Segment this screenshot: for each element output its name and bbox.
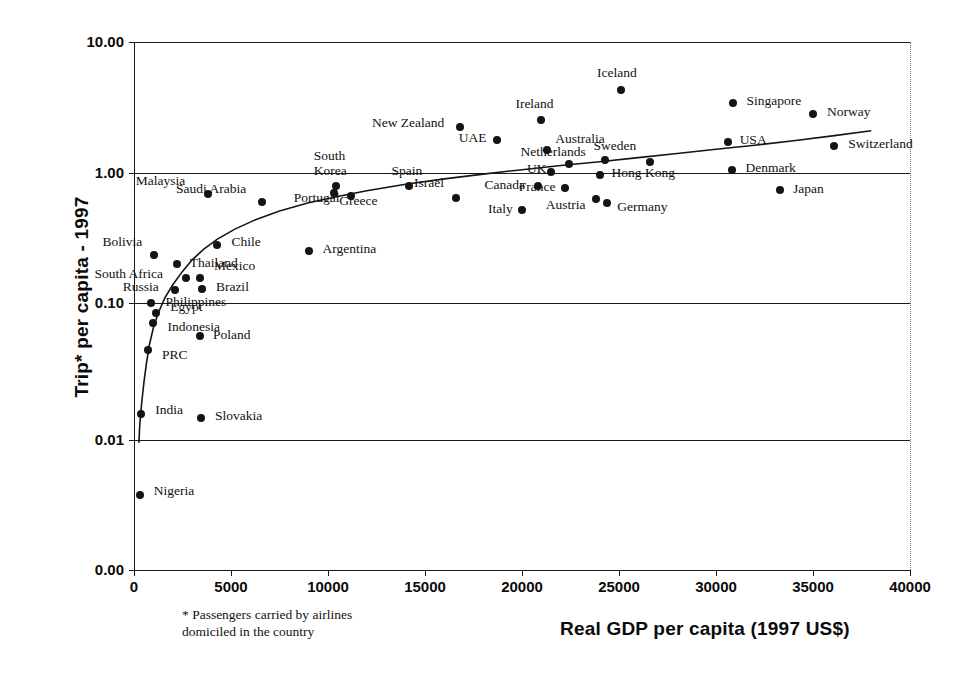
x-tick-mark — [425, 570, 426, 576]
data-point[interactable] — [149, 319, 157, 327]
x-tick-label: 10000 — [307, 578, 349, 595]
data-point[interactable] — [196, 332, 204, 340]
data-point[interactable] — [493, 136, 501, 144]
x-tick-label: 35000 — [792, 578, 834, 595]
data-point[interactable] — [137, 410, 145, 418]
data-point-label: Argentina — [323, 242, 377, 256]
data-point[interactable] — [332, 182, 340, 190]
data-point[interactable] — [603, 199, 611, 207]
data-point[interactable] — [213, 241, 221, 249]
data-point[interactable] — [197, 414, 205, 422]
data-point-label: Bolivia — [102, 235, 142, 249]
data-point-label: Austria — [546, 198, 586, 212]
x-tick-mark — [522, 570, 523, 576]
x-axis-title: Real GDP per capita (1997 US$) — [560, 618, 850, 640]
footnote-line-2: domiciled in the country — [182, 623, 352, 640]
data-point[interactable] — [173, 260, 181, 268]
footnote-line-1: * Passengers carried by airlines — [182, 606, 352, 623]
gridline-10.00 — [134, 42, 910, 43]
data-point-label: Russia — [123, 280, 159, 294]
chart-screenshot: Trip* per capita - 1997 Real GDP per cap… — [0, 0, 979, 684]
data-point-label: Sweden — [593, 139, 636, 153]
x-tick-mark — [619, 570, 620, 576]
data-point[interactable] — [596, 171, 604, 179]
data-point[interactable] — [182, 274, 190, 282]
y-tick-label: 0.00 — [95, 561, 124, 578]
data-point[interactable] — [646, 158, 654, 166]
data-point-label: Poland — [213, 328, 251, 342]
x-tick-label-wrap: 40000 — [850, 578, 970, 596]
x-tick-mark — [716, 570, 717, 576]
data-point-label: Portugal — [294, 191, 340, 205]
data-point-label: Nigeria — [154, 484, 194, 498]
data-point[interactable] — [518, 206, 526, 214]
data-point[interactable] — [776, 186, 784, 194]
data-point[interactable] — [198, 285, 206, 293]
data-point[interactable] — [258, 198, 266, 206]
data-point-label: Italy — [488, 202, 513, 216]
data-point[interactable] — [592, 195, 600, 203]
y-tick-label-wrap: 0.10 — [4, 294, 124, 312]
data-point[interactable] — [724, 138, 732, 146]
y-tick-label: 1.00 — [95, 164, 124, 181]
x-tick-mark — [328, 570, 329, 576]
data-point-label: Ireland — [515, 97, 553, 111]
x-tick-label: 0 — [130, 578, 138, 595]
data-point[interactable] — [729, 99, 737, 107]
data-point[interactable] — [561, 184, 569, 192]
footnote: * Passengers carried by airlines domicil… — [182, 606, 352, 640]
data-point[interactable] — [537, 116, 545, 124]
x-tick-label: 20000 — [501, 578, 543, 595]
fitted-curve — [134, 42, 924, 582]
data-point[interactable] — [601, 156, 609, 164]
data-point-label: Japan — [793, 182, 824, 196]
y-tick-mark — [129, 173, 135, 174]
data-point[interactable] — [565, 160, 573, 168]
data-point-label: Brazil — [216, 280, 249, 294]
gridline-0.10 — [134, 303, 910, 304]
data-point[interactable] — [547, 168, 555, 176]
data-point-label: Norway — [827, 105, 871, 119]
data-point-label: Switzerland — [848, 137, 912, 151]
y-tick-label-wrap: 10.00 — [4, 33, 124, 51]
y-axis-line — [134, 42, 135, 570]
x-tick-mark — [813, 570, 814, 576]
data-point[interactable] — [830, 142, 838, 150]
y-tick-mark — [129, 303, 135, 304]
data-point[interactable] — [452, 194, 460, 202]
x-tick-label: 30000 — [695, 578, 737, 595]
x-tick-mark — [910, 570, 911, 576]
data-point[interactable] — [147, 299, 155, 307]
data-point-label: Mexico — [214, 259, 255, 273]
data-point-label: Singapore — [746, 94, 801, 108]
data-point[interactable] — [809, 110, 817, 118]
data-point[interactable] — [405, 182, 413, 190]
plot-right-border — [910, 42, 911, 570]
y-tick-label: 0.10 — [95, 294, 124, 311]
data-point-label: New Zealand — [372, 116, 444, 130]
data-point-label: South Africa — [94, 267, 163, 281]
data-point-label: PRC — [162, 348, 188, 362]
data-point-label: UAE — [459, 131, 487, 145]
y-tick-label: 10.00 — [86, 33, 124, 50]
plot-area: NigeriaIndiaPRCIndonesiaEgyptPhilippines… — [134, 42, 910, 570]
data-point-label: Iceland — [597, 66, 637, 80]
data-point[interactable] — [305, 247, 313, 255]
x-tick-mark — [231, 570, 232, 576]
data-point[interactable] — [150, 251, 158, 259]
data-point[interactable] — [617, 86, 625, 94]
data-point[interactable] — [144, 346, 152, 354]
data-point-label: USA — [740, 133, 767, 147]
y-tick-label: 0.01 — [95, 431, 124, 448]
data-point-label: Philippines — [165, 295, 226, 309]
data-point[interactable] — [728, 166, 736, 174]
data-point[interactable] — [152, 309, 160, 317]
y-tick-label-wrap: 0.01 — [4, 431, 124, 449]
x-tick-label: 5000 — [214, 578, 247, 595]
x-tick-label: 15000 — [404, 578, 446, 595]
data-point[interactable] — [196, 274, 204, 282]
data-point-label: India — [155, 403, 183, 417]
y-tick-mark — [129, 42, 135, 43]
data-point[interactable] — [136, 491, 144, 499]
x-tick-label: 40000 — [889, 578, 931, 595]
